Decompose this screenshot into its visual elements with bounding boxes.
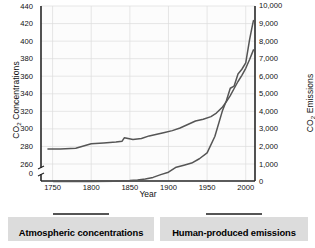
chart-canvas — [0, 0, 315, 200]
legend-swatch-emissions — [206, 213, 262, 215]
legend-label-concentrations: Atmospheric concentrations — [19, 227, 144, 241]
legend-swatch-concentrations — [53, 213, 109, 215]
chart-plot-area: CO2 Concentrations CO2 Emissions (Millio… — [0, 0, 315, 200]
co2-chart-figure: CO2 Concentrations CO2 Emissions (Millio… — [0, 0, 315, 248]
legend-item-emissions: Human-produced emissions — [160, 217, 308, 241]
legend-item-concentrations: Atmospheric concentrations — [8, 217, 154, 241]
chart-legend: Atmospheric concentrations Human-produce… — [0, 205, 315, 248]
legend-label-emissions: Human-produced emissions — [172, 227, 296, 241]
